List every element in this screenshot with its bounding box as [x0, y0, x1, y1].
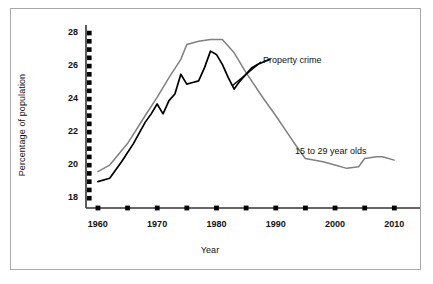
chart-plot-area [0, 0, 433, 284]
x-tick-label-1990: 1990 [256, 219, 296, 229]
x-tick-label-1980: 1980 [196, 219, 236, 229]
series-annotation-0: Property crime [263, 55, 322, 65]
y-tick-label-22: 22 [56, 126, 78, 136]
x-tick-label-1960: 1960 [78, 219, 118, 229]
y-tick-label-26: 26 [56, 60, 78, 70]
annotation-leader-lines [232, 62, 261, 86]
chart-figure: Percentage of population Year 1820222426… [0, 0, 433, 284]
y-tick-label-18: 18 [56, 192, 78, 202]
x-tick-label-1970: 1970 [137, 219, 177, 229]
y-tick-label-24: 24 [56, 93, 78, 103]
y-tick-label-20: 20 [56, 159, 78, 169]
axis-lines [86, 25, 420, 208]
x-tick-label-2000: 2000 [315, 219, 355, 229]
y-axis-tick-marks [87, 31, 92, 201]
x-tick-label-2010: 2010 [374, 219, 414, 229]
data-series-lines [98, 40, 394, 182]
series-annotation-1: 15 to 29 year olds [295, 146, 367, 156]
y-tick-label-28: 28 [56, 27, 78, 37]
